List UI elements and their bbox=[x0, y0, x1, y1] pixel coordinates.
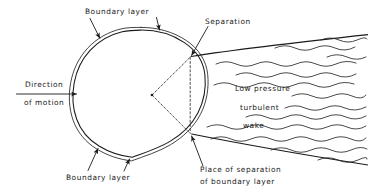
center-dot-icon bbox=[151, 94, 154, 97]
wake-squiggle bbox=[292, 94, 366, 99]
wake-squiggle bbox=[275, 46, 355, 51]
leader-arrow-place-of-separation bbox=[192, 136, 203, 166]
wake-squiggle bbox=[246, 115, 366, 120]
wake-squiggle bbox=[327, 55, 366, 60]
label-boundary-layer-bottom: Boundary layer bbox=[66, 173, 131, 182]
leader-arrow-boundary-layer-topleft bbox=[90, 19, 100, 39]
wake-squiggle bbox=[216, 61, 356, 66]
leader-arrow-boundary-layer-bottomleft bbox=[88, 149, 98, 171]
wake-squiggle bbox=[321, 38, 367, 42]
leader-arrow-boundary-layer-bottomright bbox=[124, 159, 130, 171]
label-separation: Separation bbox=[205, 17, 251, 26]
wake-squiggle bbox=[207, 125, 366, 130]
leader-arrow-boundary-layer-topright bbox=[157, 18, 160, 31]
diagram-canvas: Boundary layer Separation Direction of m… bbox=[0, 0, 368, 188]
label-direction-line2: of motion bbox=[24, 98, 64, 107]
wake-lower-boundary bbox=[192, 134, 368, 165]
cylinder-body bbox=[69, 27, 208, 161]
radius-to-lower-separation bbox=[152, 95, 190, 133]
boundary-layer-separation-diagram: Boundary layer Separation Direction of m… bbox=[0, 0, 368, 188]
wake-squiggle bbox=[211, 137, 366, 142]
separation-angle-construction bbox=[151, 57, 191, 133]
label-wake-line3: wake bbox=[243, 121, 264, 130]
cylinder-surface bbox=[73, 30, 205, 157]
wake-squiggle bbox=[318, 157, 367, 162]
wake-envelope bbox=[191, 35, 368, 165]
wake-upper-boundary bbox=[191, 35, 368, 57]
leader-arrows bbox=[88, 18, 208, 172]
label-wake-line2: turbulent bbox=[240, 103, 279, 112]
label-place-of-separation-line2: of boundary layer bbox=[200, 177, 275, 186]
label-direction-line1: Direction bbox=[25, 80, 63, 89]
boundary-layer-outer-arc bbox=[69, 27, 208, 161]
wake-squiggle bbox=[236, 73, 356, 78]
radius-to-upper-separation bbox=[152, 57, 190, 95]
leader-arrow-separation bbox=[192, 27, 208, 56]
label-place-of-separation-line1: Place of separation bbox=[200, 165, 281, 174]
turbulent-wake-squiggles bbox=[207, 38, 367, 163]
label-boundary-layer-top: Boundary layer bbox=[85, 7, 150, 16]
wake-squiggle bbox=[285, 106, 366, 111]
label-wake-line1: Low pressure bbox=[235, 84, 290, 93]
